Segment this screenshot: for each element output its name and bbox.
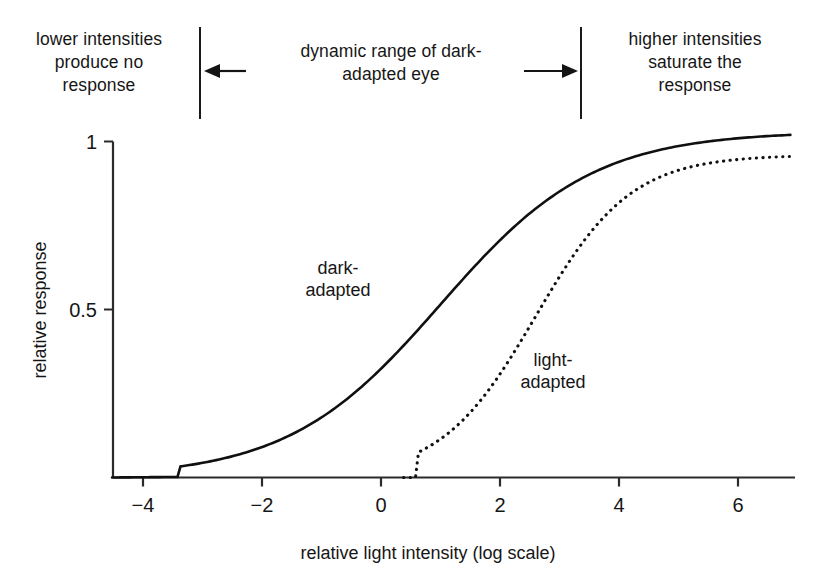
x-tick-label: −4 [132,494,155,516]
x-axis [113,478,795,487]
y-tick-labels: 0.51 [69,131,97,321]
curve-label-light-adapted-line-1: light- [533,350,572,370]
figure-container: lower intensities produce no response dy… [0,0,813,582]
curve-dark-adapted [112,135,790,478]
y-axis [104,142,113,478]
curve-label-light-adapted-line-2: adapted [520,372,585,392]
x-tick-label: 6 [732,494,743,516]
y-tick-label: 0.5 [69,299,97,321]
x-tick-label: 0 [375,494,386,516]
y-axis-title: relative response [30,241,50,378]
x-axis-title: relative light intensity (log scale) [300,543,555,563]
curve-light-adapted [404,156,791,477]
y-tick-label: 1 [86,131,97,153]
chart-plot: −4−20246 0.51 dark- adapted light- adapt… [0,0,813,582]
curve-label-dark-adapted-line-2: adapted [305,280,370,300]
x-tick-label: 2 [494,494,505,516]
x-tick-label: 4 [613,494,624,516]
curve-label-dark-adapted-line-1: dark- [317,258,358,278]
x-tick-label: −2 [251,494,274,516]
x-tick-labels: −4−20246 [132,494,744,516]
